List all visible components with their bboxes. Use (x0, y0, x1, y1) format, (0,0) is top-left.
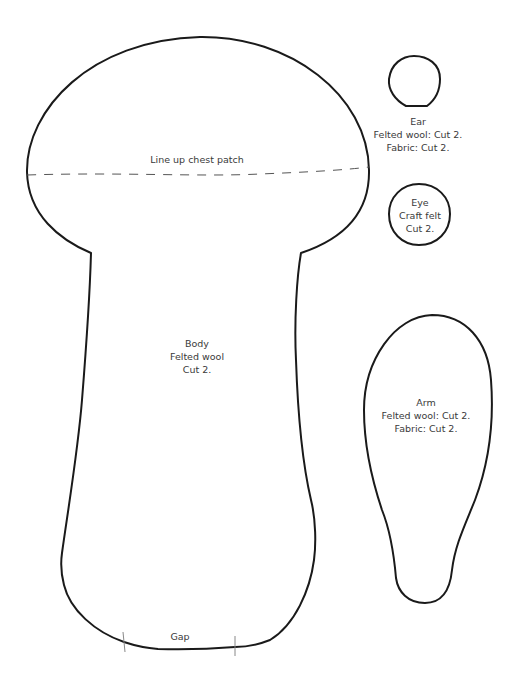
chest-patch-label: Line up chest patch (150, 153, 244, 166)
ear-label: Ear Felted wool: Cut 2. Fabric: Cut 2. (374, 115, 463, 154)
body-label: Body Felted wool Cut 2. (170, 337, 224, 376)
arm-label: Arm Felted wool: Cut 2. Fabric: Cut 2. (382, 396, 471, 435)
chest-patch-dashed-line (27, 167, 369, 175)
arm-felted-wool: Felted wool: Cut 2. (382, 409, 471, 422)
sewing-pattern-canvas (0, 0, 516, 679)
arm-title: Arm (382, 396, 471, 409)
arm-piece-outline (364, 315, 492, 603)
eye-title: Eye (399, 196, 441, 209)
body-title: Body (170, 337, 224, 350)
eye-cut-count: Cut 2. (399, 222, 441, 235)
ear-fabric: Fabric: Cut 2. (374, 141, 463, 154)
body-cut-count: Cut 2. (170, 363, 224, 376)
gap-label: Gap (170, 630, 189, 643)
ear-title: Ear (374, 115, 463, 128)
eye-label: Eye Craft felt Cut 2. (399, 196, 441, 235)
arm-fabric: Fabric: Cut 2. (382, 422, 471, 435)
ear-felted-wool: Felted wool: Cut 2. (374, 128, 463, 141)
body-material: Felted wool (170, 350, 224, 363)
eye-material: Craft felt (399, 209, 441, 222)
ear-piece-outline (389, 56, 440, 106)
